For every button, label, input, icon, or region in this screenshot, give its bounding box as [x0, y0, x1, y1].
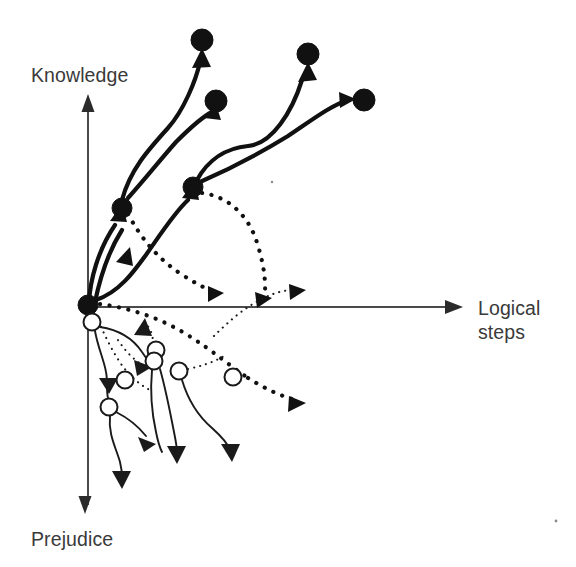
arrowhead-o2-down: [167, 446, 186, 464]
prejudice-axis-label: Prejudice: [31, 528, 113, 550]
filled-node-2: [183, 177, 203, 197]
arrowhead-dotted-n1-down: [208, 286, 224, 302]
open-node-0: [84, 314, 101, 331]
knowledge-axis-arrowhead: [82, 94, 95, 112]
filled-node-3: [191, 29, 213, 51]
filled-node-6: [353, 89, 375, 111]
arrowhead-dotted-n2-right: [255, 292, 272, 308]
arrowhead-o6-right-down: [138, 437, 156, 452]
concept-diagram-svg: Knowledge Prejudice Logical steps: [0, 0, 576, 567]
open-node-4: [117, 372, 134, 389]
trajectory-dotted-thin-into-cluster: [118, 340, 144, 366]
trajectory-o6-right-down: [116, 412, 146, 436]
trajectory-o3-down-right: [182, 380, 230, 450]
trajectory-dotted-thin-o3-right: [188, 356, 224, 369]
arrowhead-o3-down-right: [221, 444, 240, 462]
filled-node-5: [297, 43, 319, 65]
filled-node-1: [112, 198, 132, 218]
logical-steps-label-line2: steps: [478, 321, 525, 343]
knowledge-axis-label: Knowledge: [31, 64, 128, 86]
logical-steps-axis-arrowhead: [445, 300, 463, 314]
open-node-6: [101, 399, 118, 416]
arrowhead-into-o6: [99, 378, 118, 394]
arrowhead-o6-down: [112, 471, 131, 489]
arrowhead-dotted-thin-cluster-up: [134, 318, 152, 336]
trajectory-dotted-right-lower: [248, 378, 296, 400]
trajectory-dotted-thin-rising: [214, 290, 294, 336]
scan-artifacts-group: [271, 181, 558, 523]
filled-node-4: [205, 90, 227, 112]
diagram-canvas: Knowledge Prejudice Logical steps: [0, 0, 576, 567]
open-node-3: [171, 363, 188, 380]
knowledge-trajectories-group: [89, 48, 356, 303]
speck-upper: [271, 181, 273, 183]
trajectory-o2-down: [160, 369, 177, 452]
trajectory-origin-to-n1-b: [95, 230, 122, 302]
open-node-5: [225, 369, 242, 386]
arrowhead-dotted-lower-right: [288, 396, 306, 412]
axes-group: [79, 94, 464, 514]
trajectory-dotted-n2-down: [202, 193, 265, 300]
filled-node-origin: [78, 295, 98, 315]
trajectory-n2-to-n6: [200, 100, 348, 182]
prejudice-axis-arrowhead: [79, 496, 92, 514]
speck-lower-right: [555, 520, 558, 523]
arrowhead-dotted-far-right: [289, 284, 306, 300]
arrowhead-mid-lower-left: [116, 247, 133, 266]
trajectory-o1-down: [151, 370, 162, 452]
trajectory-dotted-n1-down: [128, 214, 216, 292]
trajectory-o6-down: [110, 416, 122, 478]
open-node-2: [146, 353, 163, 370]
logical-steps-label-line1: Logical: [478, 297, 541, 319]
